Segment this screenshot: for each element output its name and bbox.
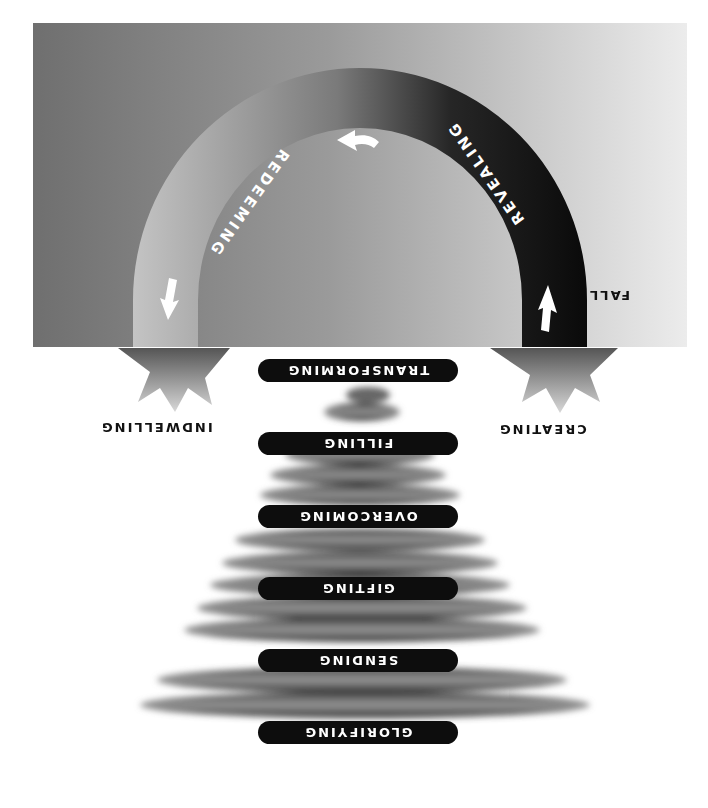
pill-sending: SENDING [258,649,458,672]
burst-right [490,348,618,413]
fall-label: FALL [588,288,630,303]
diagram-graphics: REVEALING REDEEMING [0,0,708,808]
pill-overcoming: OVERCOMING [258,505,458,528]
arrow-left-icon [337,130,379,151]
indwelling-label: INDWELLING [100,420,213,435]
burst-left [118,348,230,412]
pill-filling: FILLING [258,432,458,455]
pill-glorifying: GLORIFYING [258,721,458,744]
pill-gifting: GIFTING [258,577,458,600]
creating-label: CREATING [498,422,587,437]
pill-transforming: TRANSFORMING [258,359,458,382]
